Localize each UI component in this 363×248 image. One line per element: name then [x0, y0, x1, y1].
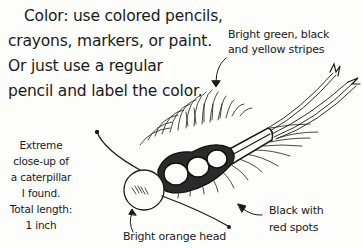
body-segments-icon [158, 145, 234, 193]
arrow-head-icon [129, 209, 136, 232]
hair-upper-icon [140, 90, 252, 145]
tail-tuft-icon [268, 64, 360, 139]
caterpillar-illustration [0, 0, 363, 248]
arrow-stripes-icon [212, 58, 226, 87]
caterpillar-head-icon [124, 170, 164, 210]
arrow-spots-icon [238, 204, 262, 215]
